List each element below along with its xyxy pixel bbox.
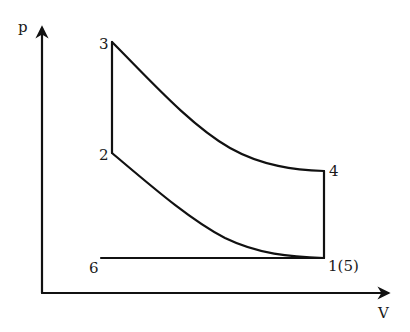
point-label-1: 1(5) — [328, 257, 359, 275]
process-3-4 — [112, 42, 324, 171]
y-axis-label: p — [18, 18, 28, 36]
point-label-2: 2 — [99, 146, 109, 164]
point-label-6: 6 — [89, 259, 99, 277]
x-axis-label: V — [377, 304, 390, 322]
point-label-4: 4 — [329, 162, 339, 180]
point-label-3: 3 — [99, 35, 109, 53]
pv-diagram: p V 3 2 4 1(5) 6 — [0, 0, 410, 332]
